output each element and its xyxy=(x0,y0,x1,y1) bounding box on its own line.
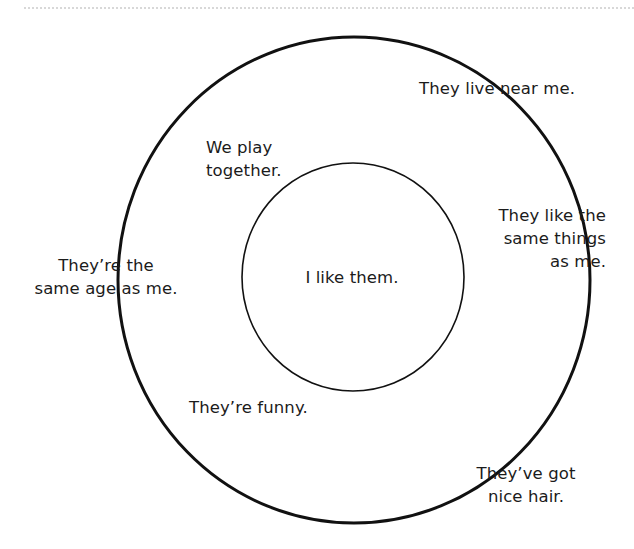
label-they-like-the-same-things-as-me: They like the same things as me. xyxy=(440,204,606,273)
label-theyre-funny: They’re funny. xyxy=(189,396,389,419)
label-theyve-got-nice-hair: They’ve got nice hair. xyxy=(446,462,606,508)
label-theyre-the-same-age-as-me: They’re the same age as me. xyxy=(28,254,184,300)
label-core-i-like-them: I like them. xyxy=(262,266,442,289)
label-they-live-near-me: They live near me. xyxy=(419,77,619,100)
worksheet-page: I like them. They live near me. We play … xyxy=(0,0,634,549)
label-we-play-together: We play together. xyxy=(206,136,386,182)
